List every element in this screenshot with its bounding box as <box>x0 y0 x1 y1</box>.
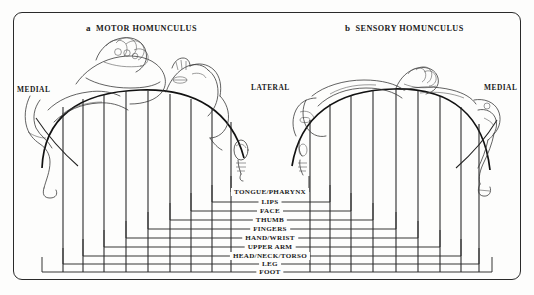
motor-homunculus-figure <box>25 38 248 198</box>
body-part-label-hand-wrist: HAND/WRIST <box>242 234 298 242</box>
sensory-homunculus-figure <box>293 67 500 196</box>
homunculus-figure: aMOTOR HOMUNCULUS bSENSORY HOMUNCULUS ME… <box>0 0 534 295</box>
motor-cortical-arc <box>36 90 244 272</box>
body-part-label-foot: FOOT <box>256 268 283 276</box>
body-part-label-tongue-pharynx: TONGUE/PHARYNX <box>231 188 309 196</box>
sensory-cortical-arc <box>292 89 497 272</box>
body-part-label-leg: LEG <box>259 260 281 268</box>
body-part-label-head-neck-torso: HEAD/NECK/TORSO <box>230 252 310 260</box>
body-part-label-upper-arm: UPPER ARM <box>245 243 296 251</box>
body-part-label-thumb: THUMB <box>253 216 287 224</box>
body-part-label-lips: LIPS <box>259 198 282 206</box>
body-part-label-face: FACE <box>257 207 283 215</box>
body-part-label-fingers: FINGERS <box>250 225 290 233</box>
